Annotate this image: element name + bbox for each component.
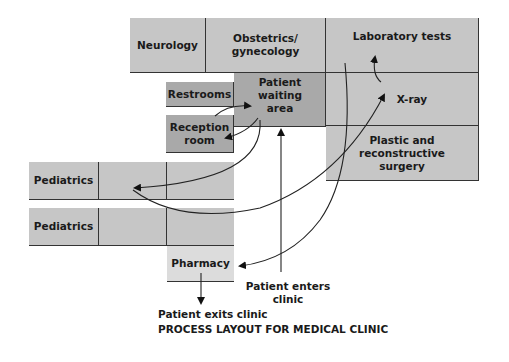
restrooms-room: Restrooms: [166, 82, 234, 107]
pediatrics-room-1: Pediatrics: [29, 162, 99, 200]
pediatrics-room-1b: [99, 162, 167, 200]
diagram-title: PROCESS LAYOUT FOR MEDICAL CLINIC: [158, 323, 388, 336]
pediatrics-label-2: Pediatrics: [34, 220, 93, 233]
neurology-label: Neurology: [137, 39, 198, 52]
reception-room: Reception room: [166, 115, 234, 153]
waiting-area: Patient waiting area: [234, 73, 326, 127]
reception-label: Reception room: [170, 121, 229, 147]
plastic-label: Plastic and reconstructive surgery: [356, 134, 448, 173]
pediatrics-room-2: Pediatrics: [29, 208, 99, 246]
patient-enters-label: Patient enters clinic: [243, 280, 333, 306]
plastic-surgery-room: Plastic and reconstructive surgery: [326, 126, 479, 181]
pediatrics-label-1: Pediatrics: [34, 174, 93, 187]
laboratory-room: Laboratory tests: [326, 18, 479, 73]
patient-exits-label: Patient exits clinic: [158, 308, 268, 321]
restrooms-label: Restrooms: [168, 88, 231, 101]
pediatrics-room-2b: [99, 208, 167, 246]
pharmacy-room: Pharmacy: [167, 246, 234, 282]
pediatrics-room-2c: [167, 208, 234, 246]
obstetrics-label: Obstetrics/ gynecology: [226, 32, 305, 58]
neurology-room: Neurology: [130, 18, 206, 73]
pediatrics-room-1c: [167, 162, 234, 200]
xray-label: X-ray: [397, 93, 427, 106]
waiting-label: Patient waiting area: [256, 76, 304, 115]
xray-room: X-ray: [325, 73, 479, 126]
obstetrics-room: Obstetrics/ gynecology: [206, 18, 326, 73]
laboratory-label: Laboratory tests: [353, 30, 451, 43]
pharmacy-label: Pharmacy: [171, 257, 230, 270]
